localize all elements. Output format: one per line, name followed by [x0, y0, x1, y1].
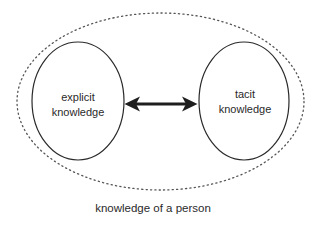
explicit-knowledge-node: explicit knowledge	[32, 42, 124, 160]
tacit-knowledge-label-line2: knowledge	[219, 103, 272, 115]
person-knowledge-boundary	[17, 13, 304, 190]
tacit-knowledge-node: tacit knowledge	[199, 42, 289, 160]
explicit-knowledge-label-line1: explicit	[61, 91, 95, 103]
arrow-shaft	[134, 103, 188, 106]
bidirectional-arrow-icon	[125, 97, 198, 112]
tacit-knowledge-ellipse	[199, 42, 289, 160]
explicit-knowledge-label-line2: knowledge	[52, 106, 105, 118]
diagram-canvas: explicit knowledge tacit knowledge knowl…	[0, 0, 320, 228]
knowledge-diagram: explicit knowledge tacit knowledge knowl…	[0, 0, 320, 228]
container-caption: knowledge of a person	[95, 202, 211, 214]
tacit-knowledge-label-line1: tacit	[235, 88, 255, 100]
